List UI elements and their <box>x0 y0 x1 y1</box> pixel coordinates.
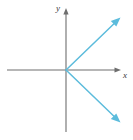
x-axis-label: x <box>122 70 127 80</box>
coordinate-plane-figure: x y <box>0 0 133 140</box>
y-axis-label: y <box>55 3 60 13</box>
figure-canvas: x y <box>0 0 133 140</box>
